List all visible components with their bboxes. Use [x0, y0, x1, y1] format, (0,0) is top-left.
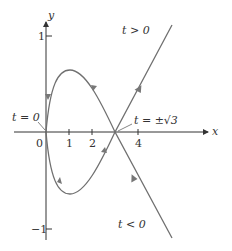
- annotation-t-positive: t > 0: [122, 24, 150, 37]
- y-tick-label-1: 1: [38, 30, 45, 43]
- t-sqrt3-leader: [118, 124, 132, 131]
- direction-arrows: [45, 83, 144, 184]
- y-tick-label-neg1: −1: [31, 223, 47, 236]
- y-axis-label: y: [47, 9, 55, 22]
- x-tick-label-4: 4: [135, 137, 142, 150]
- x-tick-label-0: 0: [36, 137, 43, 150]
- annotation-t-zero: t = 0: [12, 111, 40, 124]
- arrow-lower-ray-icon: [128, 173, 137, 182]
- arrow-loop-bottom-icon: [57, 177, 62, 184]
- parametric-curve-diagram: y x 0 1 2 4 1 −1 t = 0 t = ±√3 t > 0 t <…: [0, 0, 232, 251]
- curve-lower-branch: [46, 132, 172, 238]
- annotation-t-sqrt3: t = ±√3: [134, 114, 178, 127]
- x-axis-label: x: [212, 125, 219, 138]
- x-tick-label-2: 2: [89, 137, 96, 150]
- annotation-t-negative: t < 0: [118, 218, 146, 231]
- x-tick-label-1: 1: [66, 137, 73, 150]
